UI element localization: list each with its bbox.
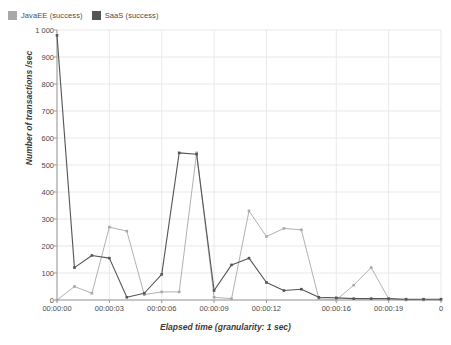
data-point-marker [265, 235, 268, 238]
data-point-marker [248, 210, 251, 213]
data-point-marker [230, 297, 233, 300]
data-point-marker [143, 292, 146, 295]
data-point-marker [108, 226, 111, 229]
data-point-marker [248, 257, 251, 260]
data-point-marker [318, 296, 321, 299]
data-point-marker [56, 34, 59, 37]
x-axis-title: Elapsed time (granularity: 1 sec) [0, 322, 451, 332]
grid-lines [57, 30, 441, 300]
data-point-marker [300, 288, 303, 291]
data-point-marker [126, 230, 129, 233]
data-point-marker [178, 291, 181, 294]
data-point-marker [352, 297, 355, 300]
data-point-marker [91, 292, 94, 295]
data-point-marker [91, 254, 94, 257]
data-point-marker [283, 289, 286, 292]
data-point-marker [213, 289, 216, 292]
data-point-marker [73, 266, 76, 269]
data-point-marker [160, 273, 163, 276]
data-point-marker [213, 296, 216, 299]
data-point-marker [387, 297, 390, 300]
data-point-marker [370, 297, 373, 300]
data-point-marker [178, 152, 181, 155]
data-point-marker [108, 257, 111, 260]
data-point-marker [422, 298, 425, 301]
data-point-marker [56, 299, 59, 302]
data-point-marker [230, 264, 233, 267]
plot-area [0, 0, 451, 345]
data-point-marker [195, 153, 198, 156]
data-point-marker [352, 284, 355, 287]
data-point-marker [370, 266, 373, 269]
data-series-lines [56, 34, 443, 301]
series-line-saas-success [57, 35, 441, 299]
data-point-marker [300, 229, 303, 232]
data-point-marker [160, 291, 163, 294]
data-point-marker [73, 285, 76, 288]
data-point-marker [265, 281, 268, 284]
series-line-javaee-success [57, 153, 441, 300]
data-point-marker [405, 298, 408, 301]
data-point-marker [335, 297, 338, 300]
axis-lines [54, 30, 441, 303]
data-point-marker [126, 296, 129, 299]
data-point-marker [283, 227, 286, 230]
data-point-marker [440, 298, 443, 301]
transactions-per-second-line-chart: JavaEE (success) SaaS (success) Number o… [0, 0, 451, 345]
